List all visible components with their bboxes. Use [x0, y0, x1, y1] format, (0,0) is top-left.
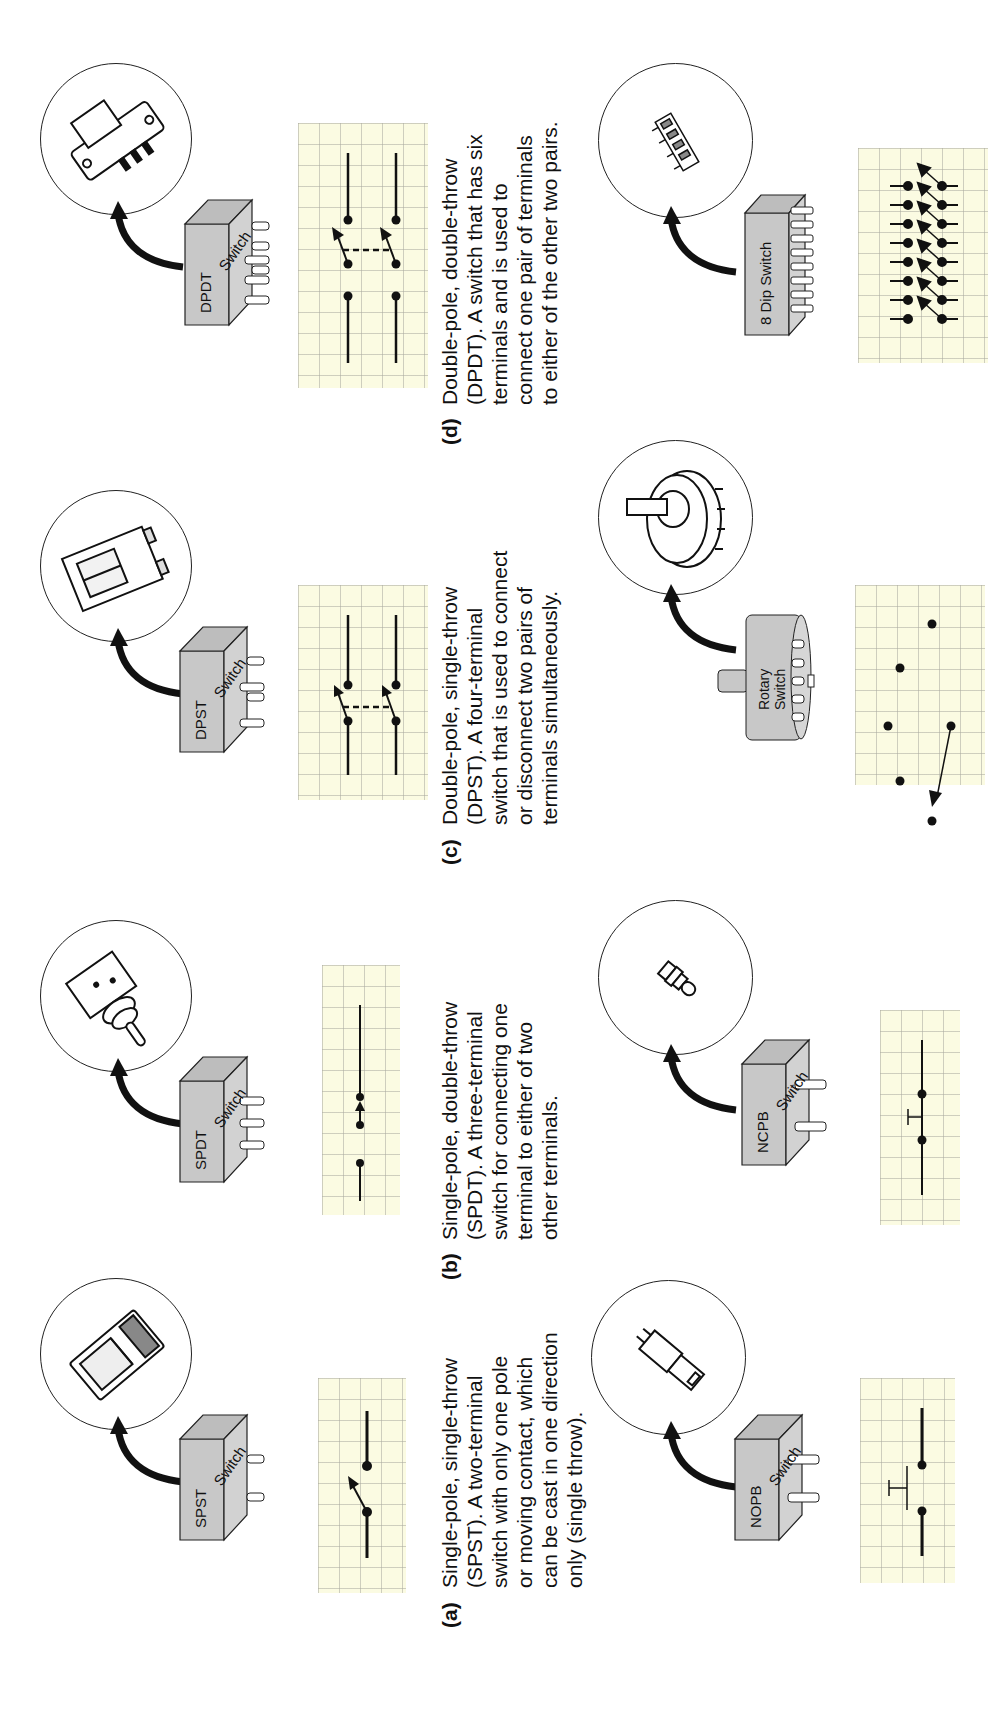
caption-line: terminals simultaneously. — [537, 551, 562, 865]
dip-photo-circle — [598, 63, 753, 218]
spdt-schematic — [322, 965, 400, 1215]
caption-line: connect one pair of terminals — [512, 121, 537, 445]
caption-line: (DPDT). A switch that has six — [462, 121, 487, 445]
caption-line: (SPDT). A three-terminal — [462, 1002, 487, 1280]
caption-line: or disconnect two pairs of — [512, 551, 537, 865]
rotary-schematic — [855, 585, 985, 785]
normally-closed-pushbutton-symbol-icon — [880, 1010, 960, 1225]
box-label: NOPB — [747, 1485, 764, 1528]
dpst-schematic — [298, 585, 428, 800]
box-label: DPDT — [197, 272, 214, 313]
spst-schematic — [318, 1378, 406, 1593]
box-label: 8 Dip Switch — [757, 242, 774, 325]
spdt-photo-circle — [40, 920, 192, 1072]
dip-schematic — [858, 148, 988, 363]
box-label-line: Switch — [772, 669, 788, 710]
caption-line: switch with only one pole — [487, 1332, 512, 1628]
box-label: SPST — [192, 1489, 209, 1528]
caption-line: Single-pole, double-throw — [438, 1002, 461, 1240]
ncpb-photo-circle — [598, 900, 753, 1055]
caption-spst: (a)Single-pole, single-throw (SPST). A t… — [437, 1332, 587, 1628]
spst-component-box: SPST Switch — [180, 1415, 260, 1540]
dpdt-photo-circle — [40, 63, 192, 215]
caption-line: terminal to either of two — [512, 1002, 537, 1280]
box-label: NCPB — [754, 1111, 771, 1153]
dpst-photo-circle — [40, 490, 192, 642]
small-pushbutton-icon — [599, 901, 754, 1056]
arrow-icon — [110, 1062, 190, 1142]
caption-spdt: (b)Single-pole, double-throw (SPDT). A t… — [437, 1002, 562, 1280]
dip-component-box: 8 Dip Switch — [745, 195, 825, 335]
dip-switch-symbol-icon — [858, 148, 988, 363]
dpdt-slide-switch-icon — [41, 64, 193, 216]
arrow-icon — [110, 632, 190, 712]
caption-line: switch that is used to connect — [487, 551, 512, 865]
box-label: Rotary Switch — [756, 669, 788, 710]
ncpb-component-box: NCPB Switch — [742, 1040, 822, 1165]
pushbutton-icon — [592, 1281, 747, 1436]
ncpb-schematic — [880, 1010, 960, 1225]
caption-line: only (single throw). — [562, 1332, 587, 1628]
box-label: DPST — [192, 700, 209, 740]
arrow-icon — [110, 1420, 190, 1500]
arrow-icon — [663, 210, 743, 290]
caption-tag: (d) — [437, 405, 462, 445]
dpst-symbol-icon — [298, 585, 428, 800]
nopb-schematic — [860, 1378, 955, 1583]
caption-line: or moving contact, which — [512, 1332, 537, 1628]
caption-line: Double-pole, double-throw — [438, 159, 461, 405]
nopb-component-box: NOPB Switch — [735, 1415, 815, 1540]
nopb-photo-circle — [591, 1280, 746, 1435]
dpst-component-box: DPST Switch — [180, 627, 260, 752]
caption-tag: (a) — [437, 1588, 462, 1628]
arrow-icon — [663, 1048, 743, 1128]
dpdt-schematic — [298, 123, 428, 388]
spst-symbol-icon — [318, 1378, 406, 1593]
arrow-icon — [110, 205, 190, 285]
spdt-symbol-icon — [322, 965, 400, 1215]
caption-line: switch for connecting one — [487, 1002, 512, 1280]
caption-tag: (b) — [437, 1240, 462, 1280]
dpst-rocker-icon — [41, 491, 193, 643]
normally-open-pushbutton-symbol-icon — [860, 1378, 955, 1583]
dpdt-component-box: DPDT Switch — [185, 200, 265, 325]
rotary-switch-symbol-icon — [855, 585, 985, 785]
caption-line: can be cast in one direction — [537, 1332, 562, 1628]
dip-switch-icon — [599, 64, 754, 219]
caption-line: Double-pole, single-throw — [438, 587, 461, 825]
box-label-line: Rotary — [756, 669, 772, 710]
spst-photo-circle — [40, 1278, 192, 1430]
rocker-switch-icon — [41, 1279, 193, 1431]
rotary-switch-icon — [599, 441, 754, 596]
caption-tag: (c) — [437, 825, 462, 865]
dpdt-symbol-icon — [298, 123, 428, 388]
caption-line: terminals and is used to — [487, 121, 512, 445]
box-label: SPDT — [192, 1130, 209, 1170]
caption-line: (SPST). A two-terminal — [462, 1332, 487, 1628]
caption-line: (DPST). A four-terminal — [462, 551, 487, 865]
toggle-switch-icon — [41, 921, 193, 1073]
caption-line: Single-pole, single-throw — [438, 1358, 461, 1588]
caption-dpdt: (d)Double-pole, double-throw (DPDT). A s… — [437, 121, 562, 445]
rotary-component-box: Rotary Switch — [718, 615, 848, 745]
caption-line: other terminals. — [537, 1002, 562, 1280]
arrow-icon — [663, 1425, 743, 1505]
caption-dpst: (c)Double-pole, single-throw (DPST). A f… — [437, 551, 562, 865]
caption-line: to either of the other two pairs. — [537, 121, 562, 445]
spdt-component-box: SPDT Switch — [180, 1057, 260, 1182]
rotary-photo-circle — [598, 440, 753, 595]
